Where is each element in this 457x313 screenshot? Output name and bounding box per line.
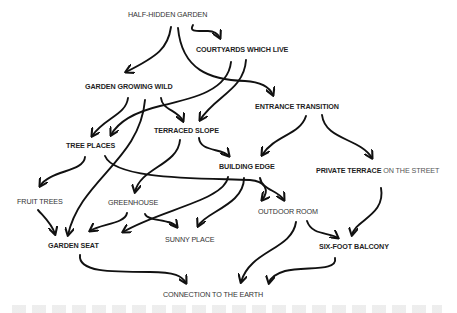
node-tree-places: TREE PLACES <box>66 142 115 149</box>
edge-greenhouse-to-garden-seat <box>90 213 127 231</box>
edge-ggw-to-garden-seat <box>68 100 145 235</box>
edge-terraced-to-building-edge <box>199 138 229 156</box>
edge-half-hidden-to-garden-growing-wild <box>126 27 171 72</box>
node-outdoor-room: OUTDOOR ROOM <box>258 208 318 215</box>
edge-private-terrace-to-balcony <box>352 188 382 235</box>
pattern-diagram: HALF-HIDDEN GARDEN COURTYARDS WHICH LIVE… <box>0 0 457 313</box>
node-building-edge: BUILDING EDGE <box>219 163 275 170</box>
node-greenhouse: GREENHOUSE <box>108 199 158 206</box>
edge-garden-seat-to-earth <box>80 255 186 283</box>
node-half-hidden-garden: HALF-HIDDEN GARDEN <box>128 11 207 18</box>
node-courtyards-which-live: COURTYARDS WHICH LIVE <box>196 46 288 53</box>
node-six-foot-balcony: SIX-FOOT BALCONY <box>319 243 389 250</box>
edge-outdoor-room-to-earth <box>241 222 296 282</box>
edge-entrance-to-private-terrace <box>322 115 372 158</box>
node-terraced-slope: TERRACED SLOPE <box>154 127 219 134</box>
node-fruit-trees: FRUIT TREES <box>17 198 63 205</box>
edge-balcony-to-earth <box>269 258 335 283</box>
edge-tree-places-to-fruit-trees <box>40 157 85 186</box>
node-connection-to-the-earth: CONNECTION TO THE EARTH <box>163 291 263 298</box>
node-private-terrace-label: PRIVATE TERRACE <box>316 166 381 175</box>
edge-courtyards-to-tree-places <box>111 62 231 135</box>
edge-entrance-to-building-edge <box>262 116 306 155</box>
node-garden-growing-wild: GARDEN GROWING WILD <box>85 83 173 90</box>
edge-fruit-trees-to-garden-seat <box>38 210 55 234</box>
node-garden-seat: GARDEN SEAT <box>48 242 99 249</box>
edge-half-hidden-to-entrance <box>178 28 273 95</box>
node-private-terrace-suffix: ON THE STREET <box>383 166 439 175</box>
edge-half-hidden-to-courtyards <box>192 25 220 38</box>
edge-terraced-to-greenhouse <box>135 140 180 192</box>
edge-courtyards-to-terraced-slope <box>200 60 246 120</box>
edge-outdoor-room-to-balcony <box>307 221 338 238</box>
edge-building-edge-to-sunny-place <box>198 178 244 226</box>
node-private-terrace-on-the-street: PRIVATE TERRACE ON THE STREET <box>316 167 439 174</box>
cropped-caption <box>12 305 442 313</box>
node-sunny-place: SUNNY PLACE <box>165 236 215 243</box>
edge-ggw-to-tree-places <box>92 98 128 136</box>
node-entrance-transition: ENTRANCE TRANSITION <box>255 103 339 110</box>
